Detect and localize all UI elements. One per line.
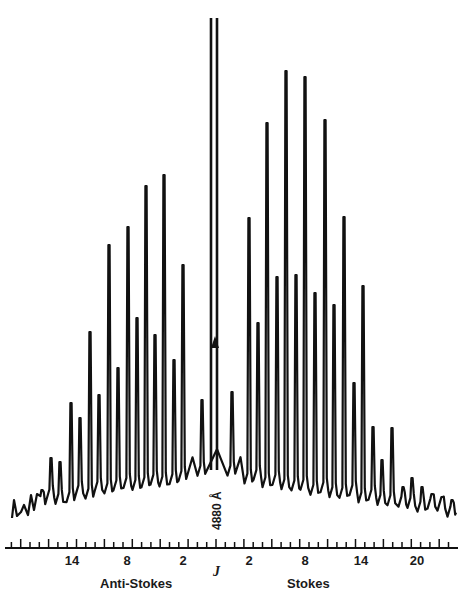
stokes-label: Stokes: [287, 576, 330, 591]
tick-label: 14: [354, 553, 369, 568]
tick-label: 14: [65, 553, 80, 568]
spectrum-trace: [12, 71, 456, 518]
tick-label: 8: [123, 553, 130, 568]
tick-label: 2: [179, 553, 186, 568]
wavelength-annotation: 4880 Å: [209, 491, 224, 530]
j-axis: [5, 539, 458, 548]
tick-label: 8: [301, 553, 308, 568]
tick-label: 20: [410, 553, 424, 568]
anti-stokes-label: Anti-Stokes: [100, 576, 172, 591]
axis-label-j: J: [212, 564, 221, 579]
tick-label: 2: [245, 553, 252, 568]
j-axis-tick-labels: 1482281420: [65, 553, 424, 568]
raman-spectrum-figure: 1482281420 4880 Å J Anti-Stokes Stokes: [0, 0, 466, 596]
rayleigh-line-4880: [211, 18, 219, 470]
spectrum-line: [12, 71, 456, 518]
